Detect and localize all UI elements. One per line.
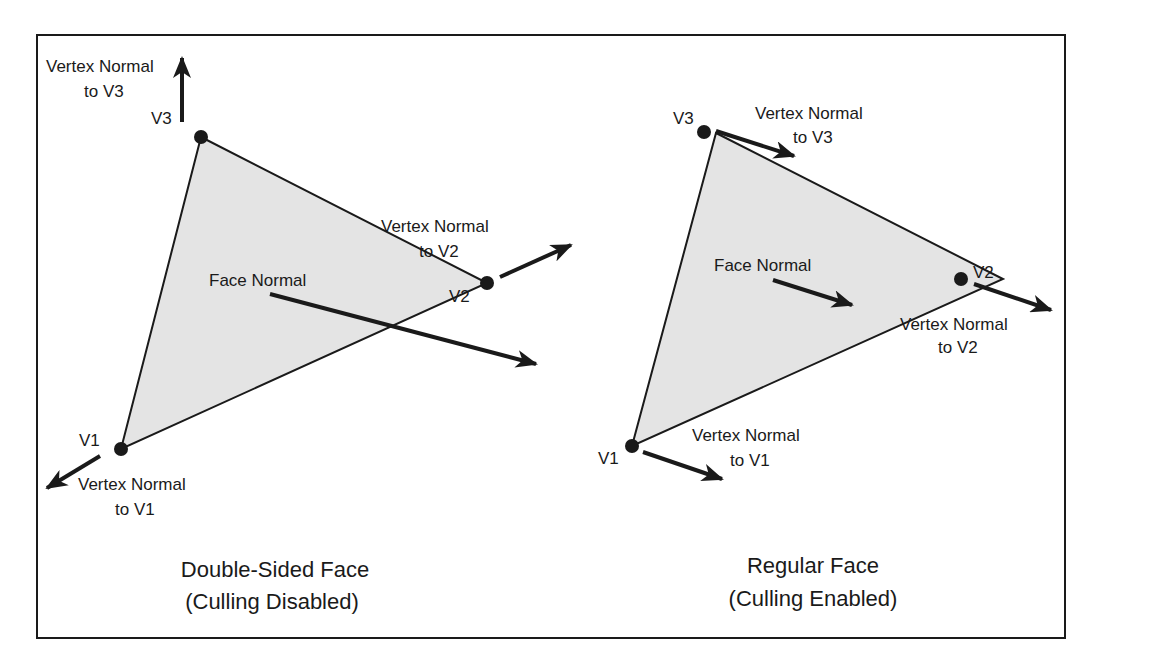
label-v3: V3 bbox=[673, 109, 694, 128]
label-vertex-normal-v2-line2: to V2 bbox=[419, 242, 459, 261]
vertex-v3-dot bbox=[697, 125, 711, 139]
label-v1: V1 bbox=[79, 431, 100, 450]
vertex-v2-dot bbox=[954, 272, 968, 286]
vertex-normal-v2-arrow bbox=[500, 245, 571, 277]
vertex-v1-dot bbox=[625, 439, 639, 453]
vertex-normal-v2-arrow bbox=[974, 284, 1051, 310]
label-vertex-normal-v2-line2: to V2 bbox=[938, 338, 978, 357]
label-vertex-normal-v1-line1: Vertex Normal bbox=[78, 475, 186, 494]
label-vertex-normal-v2-line1: Vertex Normal bbox=[381, 217, 489, 236]
label-face-normal: Face Normal bbox=[714, 256, 811, 275]
label-face-normal: Face Normal bbox=[209, 271, 306, 290]
vertex-v2-dot bbox=[480, 276, 494, 290]
vertex-v3-dot bbox=[194, 130, 208, 144]
label-v3: V3 bbox=[151, 109, 172, 128]
label-vertex-normal-v1-line2: to V1 bbox=[115, 500, 155, 519]
vertex-normal-v1-arrow bbox=[643, 452, 722, 479]
label-vertex-normal-v3-line2: to V3 bbox=[793, 128, 833, 147]
caption-line2: (Culling Enabled) bbox=[729, 586, 898, 611]
triangle-face bbox=[632, 133, 1003, 446]
panel-regular: V3 Vertex Normal to V3 Face Normal V2 Ve… bbox=[598, 104, 1051, 611]
caption-line1: Double-Sided Face bbox=[181, 557, 369, 582]
label-vertex-normal-v3-line2: to V3 bbox=[84, 82, 124, 101]
label-vertex-normal-v1-line2: to V1 bbox=[730, 451, 770, 470]
face-normals-diagram: Vertex Normal to V3 V3 Vertex Normal to … bbox=[0, 0, 1159, 669]
label-v2: V2 bbox=[449, 287, 470, 306]
triangle-face bbox=[121, 137, 487, 449]
caption-line1: Regular Face bbox=[747, 553, 879, 578]
label-vertex-normal-v3-line1: Vertex Normal bbox=[46, 57, 154, 76]
label-vertex-normal-v3-line1: Vertex Normal bbox=[755, 104, 863, 123]
caption-line2: (Culling Disabled) bbox=[185, 589, 359, 614]
label-v2: V2 bbox=[973, 263, 994, 282]
label-vertex-normal-v1-line1: Vertex Normal bbox=[692, 426, 800, 445]
label-vertex-normal-v2-line1: Vertex Normal bbox=[900, 315, 1008, 334]
vertex-v1-dot bbox=[114, 442, 128, 456]
label-v1: V1 bbox=[598, 449, 619, 468]
panel-double-sided: Vertex Normal to V3 V3 Vertex Normal to … bbox=[46, 57, 571, 614]
